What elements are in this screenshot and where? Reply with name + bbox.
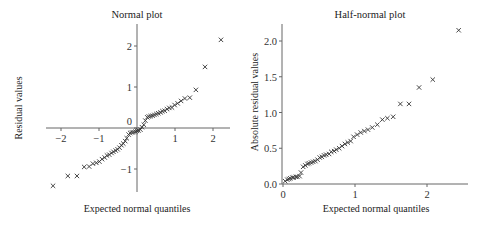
y-tick-label: 1.5 xyxy=(264,72,277,83)
x-tick-label: −1 xyxy=(93,133,104,144)
half-normal-plot-axes: 0120.00.51.01.52.0 xyxy=(264,24,468,200)
x-tick-label: 1 xyxy=(352,189,357,200)
normal-plot-title: Normal plot xyxy=(111,9,162,20)
half-normal-plot-y-label: Absolute residual values xyxy=(249,53,260,151)
y-tick-label: 2.0 xyxy=(264,36,277,47)
x-tick-label: 1 xyxy=(172,133,177,144)
half-normal-plot: Half-normal plot 0120.00.51.01.52.0 Expe… xyxy=(249,9,468,214)
y-tick-label: 1.0 xyxy=(264,108,277,119)
half-normal-plot-title: Half-normal plot xyxy=(335,9,406,20)
x-tick-label: 2 xyxy=(424,189,429,200)
x-tick-label: 2 xyxy=(210,133,215,144)
chart-figure: Normal plot −2−112−1012 Expected normal … xyxy=(0,0,487,234)
normal-plot-x-label: Expected normal quantiles xyxy=(84,203,191,214)
y-tick-label: −1 xyxy=(121,164,132,175)
normal-plot-y-label: Residual values xyxy=(13,76,24,139)
y-tick-label: 0.5 xyxy=(264,143,277,154)
normal-plot: Normal plot −2−112−1012 Expected normal … xyxy=(13,9,230,214)
y-tick-label: 0 xyxy=(127,116,132,127)
half-normal-plot-points xyxy=(283,28,461,183)
y-tick-label: 2 xyxy=(127,41,132,52)
x-tick-label: −2 xyxy=(55,133,66,144)
y-tick-label: 1 xyxy=(127,82,132,93)
normal-plot-axes: −2−112−1012 xyxy=(46,24,230,192)
half-normal-plot-x-label: Expected normal quantiles xyxy=(323,203,430,214)
y-tick-label: 0.0 xyxy=(264,179,277,190)
x-tick-label: 0 xyxy=(280,189,285,200)
